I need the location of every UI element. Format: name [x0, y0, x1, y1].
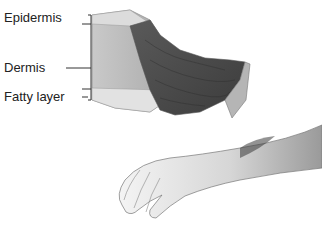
layer-brackets	[66, 15, 91, 100]
label-dermis: Dermis	[4, 60, 45, 75]
arm-illustration	[119, 125, 322, 218]
label-epidermis: Epidermis	[4, 10, 62, 25]
skin-cross-section	[92, 10, 250, 118]
label-fatty-layer: Fatty layer	[4, 89, 65, 104]
skin-illustration	[0, 0, 322, 236]
